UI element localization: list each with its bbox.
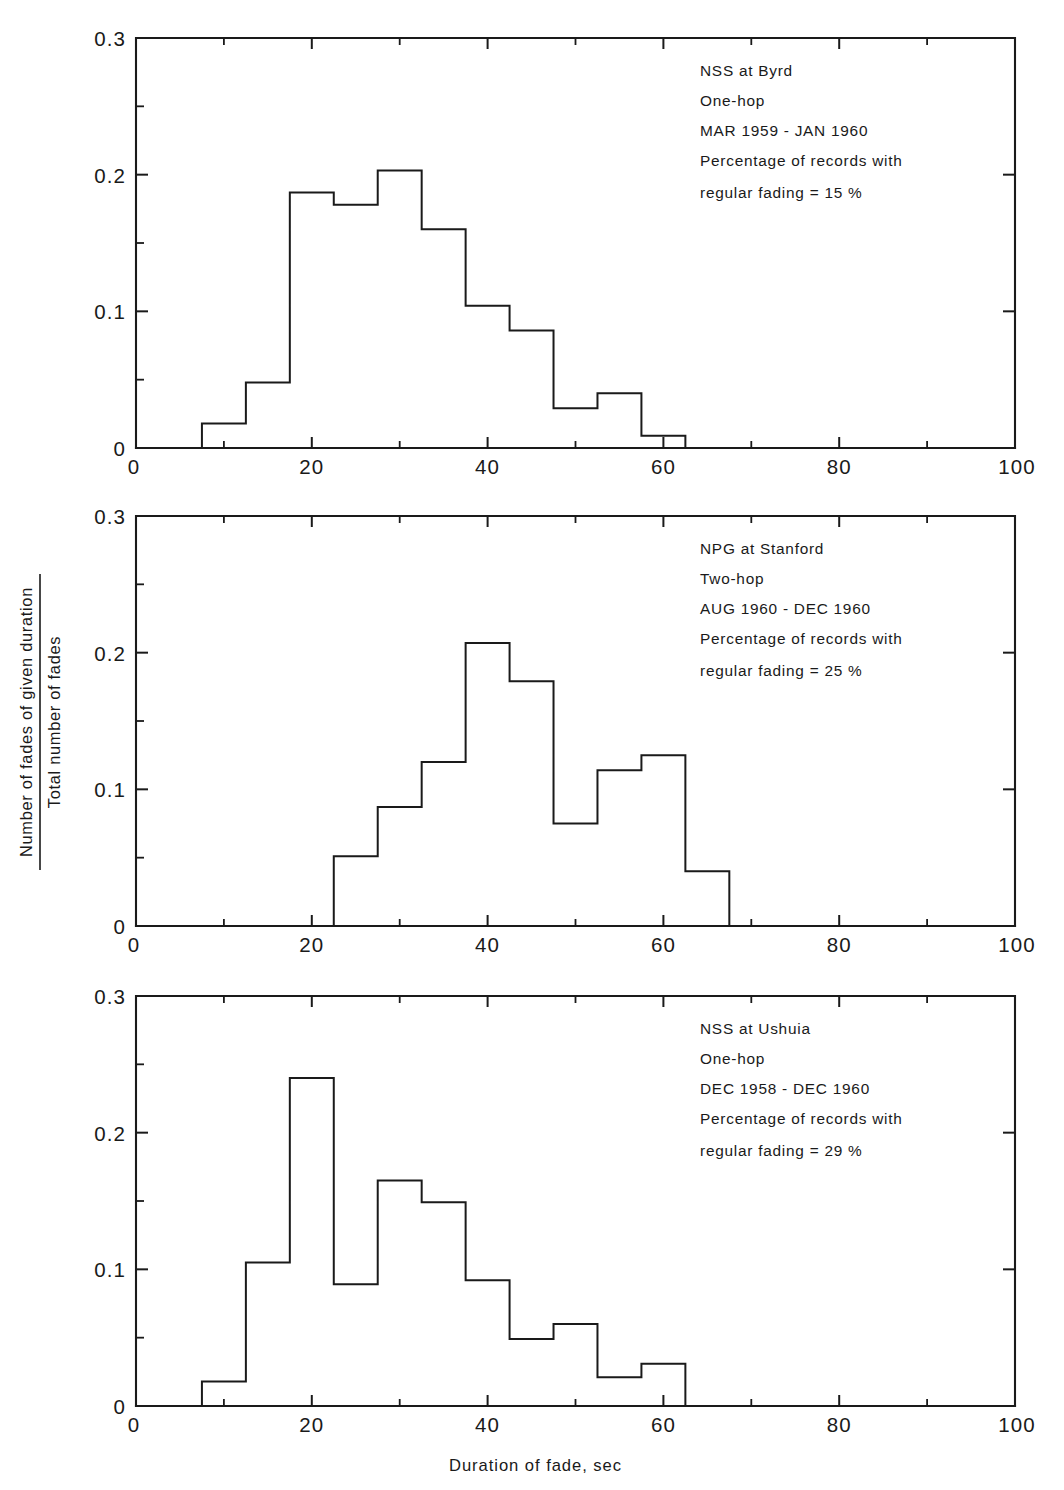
plot-frame bbox=[136, 516, 1015, 926]
x-tick-label: 100 bbox=[998, 933, 1036, 956]
x-tick-label: 0 bbox=[128, 1413, 141, 1436]
chart-panel-top: 02040608010000.10.20.3NSS at ByrdOne-hop… bbox=[94, 27, 1036, 478]
annotation-line: One-hop bbox=[700, 1050, 765, 1067]
y-tick-label: 0.3 bbox=[94, 505, 126, 528]
y-axis-title: Number of fades of given durationTotal n… bbox=[17, 574, 63, 870]
x-tick-label: 20 bbox=[299, 455, 324, 478]
annotation-line: regular fading = 29 % bbox=[700, 1142, 863, 1159]
y-tick-label: 0.1 bbox=[94, 778, 126, 801]
y-tick-label: 0.1 bbox=[94, 300, 126, 323]
histogram-figure: 02040608010000.10.20.3NSS at ByrdOne-hop… bbox=[0, 0, 1064, 1490]
y-tick-label: 0.2 bbox=[94, 642, 126, 665]
y-tick-label: 0.2 bbox=[94, 1122, 126, 1145]
figure-root: 02040608010000.10.20.3NSS at ByrdOne-hop… bbox=[0, 0, 1064, 1490]
y-axis-title-denominator: Total number of fades bbox=[45, 636, 63, 808]
x-tick-label: 40 bbox=[475, 455, 500, 478]
annotation-line: NSS at Byrd bbox=[700, 62, 793, 79]
panels-group: 02040608010000.10.20.3NSS at ByrdOne-hop… bbox=[94, 27, 1036, 1436]
panel-annotation: NSS at ByrdOne-hopMAR 1959 - JAN 1960Per… bbox=[700, 62, 903, 201]
y-tick-label: 0 bbox=[113, 437, 126, 460]
y-tick-label: 0 bbox=[113, 915, 126, 938]
x-tick-label: 60 bbox=[651, 455, 676, 478]
histogram-outline bbox=[334, 643, 730, 926]
annotation-line: DEC 1958 - DEC 1960 bbox=[700, 1080, 870, 1097]
x-tick-label: 40 bbox=[475, 933, 500, 956]
x-tick-label: 40 bbox=[475, 1413, 500, 1436]
x-tick-label: 20 bbox=[299, 933, 324, 956]
annotation-line: One-hop bbox=[700, 92, 765, 109]
x-tick-label: 100 bbox=[998, 455, 1036, 478]
x-axis-title-group: Duration of fade, sec bbox=[449, 1456, 622, 1475]
plot-frame bbox=[136, 38, 1015, 448]
x-tick-label: 20 bbox=[299, 1413, 324, 1436]
annotation-line: Percentage of records with bbox=[700, 152, 903, 169]
annotation-line: Percentage of records with bbox=[700, 630, 903, 647]
x-tick-label: 80 bbox=[827, 455, 852, 478]
annotation-line: Two-hop bbox=[700, 570, 764, 587]
x-tick-label: 100 bbox=[998, 1413, 1036, 1436]
y-tick-label: 0.3 bbox=[94, 985, 126, 1008]
histogram-outline bbox=[202, 171, 685, 448]
x-tick-label: 60 bbox=[651, 933, 676, 956]
x-axis-title: Duration of fade, sec bbox=[449, 1456, 622, 1475]
chart-panel-bottom: 02040608010000.10.20.3NSS at UshuiaOne-h… bbox=[94, 985, 1036, 1436]
histogram-outline bbox=[202, 1078, 685, 1406]
chart-panel-middle: 02040608010000.10.20.3NPG at StanfordTwo… bbox=[94, 505, 1036, 956]
y-axis-title-group: Number of fades of given durationTotal n… bbox=[17, 574, 63, 870]
annotation-line: AUG 1960 - DEC 1960 bbox=[700, 600, 871, 617]
panel-annotation: NPG at StanfordTwo-hopAUG 1960 - DEC 196… bbox=[700, 540, 903, 679]
annotation-line: NSS at Ushuia bbox=[700, 1020, 811, 1037]
x-tick-label: 0 bbox=[128, 933, 141, 956]
panel-annotation: NSS at UshuiaOne-hopDEC 1958 - DEC 1960P… bbox=[700, 1020, 903, 1159]
x-tick-label: 80 bbox=[827, 933, 852, 956]
x-tick-label: 60 bbox=[651, 1413, 676, 1436]
annotation-line: regular fading = 15 % bbox=[700, 184, 863, 201]
annotation-line: MAR 1959 - JAN 1960 bbox=[700, 122, 868, 139]
x-tick-label: 80 bbox=[827, 1413, 852, 1436]
plot-frame bbox=[136, 996, 1015, 1406]
y-tick-label: 0.2 bbox=[94, 164, 126, 187]
y-tick-label: 0.3 bbox=[94, 27, 126, 50]
annotation-line: Percentage of records with bbox=[700, 1110, 903, 1127]
y-tick-label: 0.1 bbox=[94, 1258, 126, 1281]
x-tick-label: 0 bbox=[128, 455, 141, 478]
annotation-line: NPG at Stanford bbox=[700, 540, 824, 557]
y-axis-title-numerator: Number of fades of given duration bbox=[17, 587, 35, 857]
y-tick-label: 0 bbox=[113, 1395, 126, 1418]
annotation-line: regular fading = 25 % bbox=[700, 662, 863, 679]
